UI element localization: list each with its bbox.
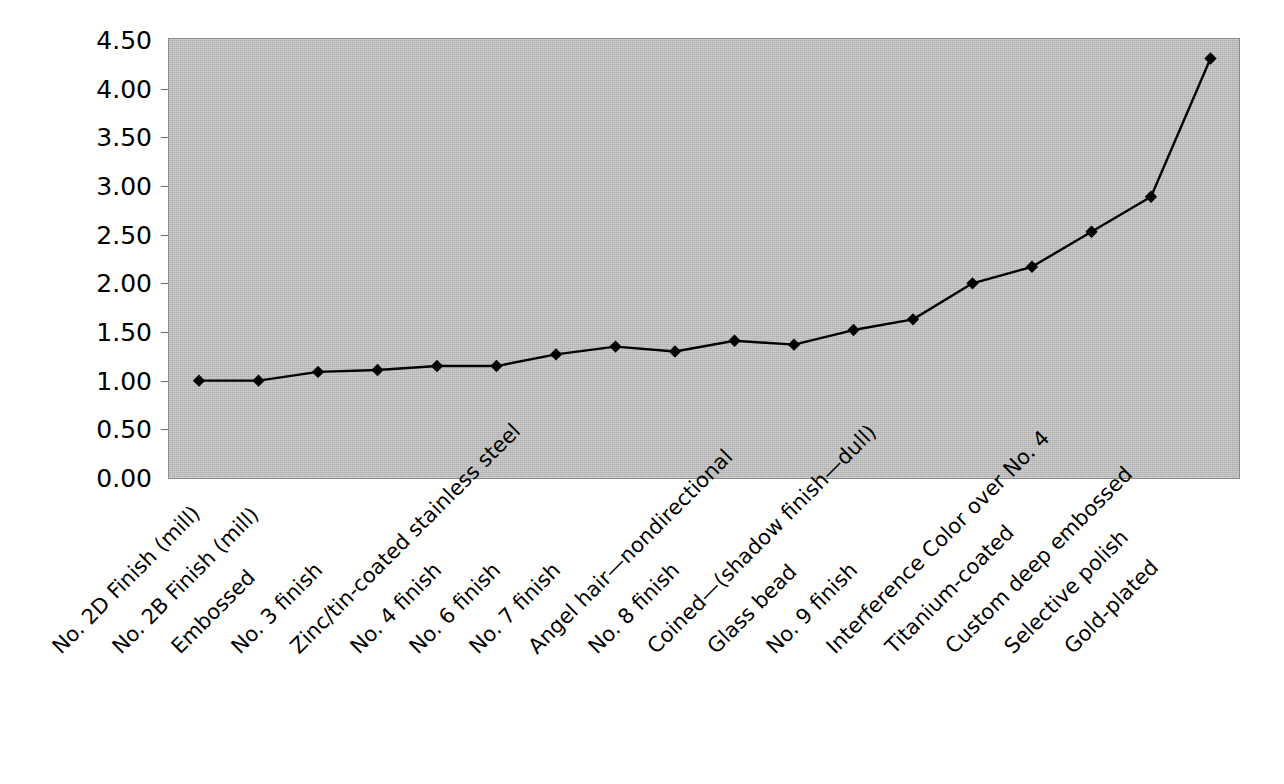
y-tick-label: 2.50 <box>96 222 152 247</box>
y-tick-label: 1.00 <box>96 368 152 393</box>
y-tick-mark <box>161 235 168 236</box>
data-point-marker <box>788 338 800 350</box>
y-tick-mark <box>161 381 168 382</box>
y-tick-label: 0.50 <box>96 417 152 442</box>
y-tick-label: 2.00 <box>96 271 152 296</box>
data-point-marker <box>847 324 859 336</box>
y-tick-label: 4.00 <box>96 76 152 101</box>
data-point-marker <box>728 335 740 347</box>
y-tick-mark <box>161 89 168 90</box>
data-point-marker <box>1026 261 1038 273</box>
data-point-marker <box>371 364 383 376</box>
series-line <box>199 58 1211 380</box>
y-tick-label: 1.50 <box>96 320 152 345</box>
data-point-marker <box>1145 191 1157 203</box>
line-chart: 0.000.501.001.502.002.503.003.504.004.50… <box>0 0 1284 784</box>
data-point-marker <box>907 313 919 325</box>
y-tick-label: 3.50 <box>96 125 152 150</box>
data-series <box>168 38 1240 479</box>
y-tick-mark <box>161 137 168 138</box>
y-tick-mark <box>161 332 168 333</box>
data-point-marker <box>431 360 443 372</box>
data-point-marker <box>1085 226 1097 238</box>
y-tick-mark <box>161 186 168 187</box>
data-point-marker <box>193 374 205 386</box>
y-tick-mark <box>161 429 168 430</box>
data-point-marker <box>550 348 562 360</box>
data-point-marker <box>609 340 621 352</box>
y-tick-mark <box>161 283 168 284</box>
data-point-marker <box>966 277 978 289</box>
y-tick-label: 3.00 <box>96 174 152 199</box>
data-point-marker <box>312 366 324 378</box>
x-axis-labels: No. 2D Finish (mill)No. 2B Finish (mill)… <box>0 479 1284 784</box>
data-point-marker <box>669 345 681 357</box>
data-point-marker <box>252 374 264 386</box>
data-point-marker <box>490 360 502 372</box>
y-tick-label: 4.50 <box>96 28 152 53</box>
data-point-marker <box>1204 52 1216 64</box>
